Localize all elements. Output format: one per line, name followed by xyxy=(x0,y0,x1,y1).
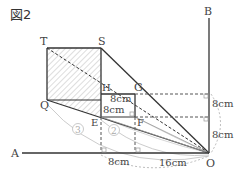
right-angle-marker xyxy=(102,148,106,152)
label-B: B xyxy=(204,5,212,18)
hatched-region xyxy=(47,48,101,117)
measure-HE: 8cm xyxy=(103,104,125,115)
right-angle-marker xyxy=(130,112,134,116)
label-E: E xyxy=(91,117,98,128)
right-angle-marker xyxy=(136,148,140,152)
right-angle-marker xyxy=(204,94,208,98)
segment-EO xyxy=(101,117,209,153)
label-A: A xyxy=(10,147,20,160)
label-Q: Q xyxy=(40,99,49,112)
arc-3 xyxy=(47,104,209,160)
geometry-diagram: T S H G Q E F O A B 8cm 8cm 8cm 8cm 8cm … xyxy=(0,0,245,177)
label-F: F xyxy=(137,117,144,128)
measure-right-lower: 8cm xyxy=(212,129,234,140)
measure-right-upper: 8cm xyxy=(212,98,234,109)
circled-2-label: 2 xyxy=(111,126,117,136)
label-G: G xyxy=(134,81,143,94)
label-H: H xyxy=(102,82,111,93)
measure-bottom-left: 8cm xyxy=(108,156,130,167)
label-T: T xyxy=(40,35,48,48)
measure-bottom-right: 16cm xyxy=(159,157,187,168)
label-O: O xyxy=(206,157,215,170)
label-S: S xyxy=(98,35,106,48)
measure-HG: 8cm xyxy=(110,93,132,104)
circled-3-label: 3 xyxy=(75,125,81,135)
right-angle-marker xyxy=(204,117,208,121)
